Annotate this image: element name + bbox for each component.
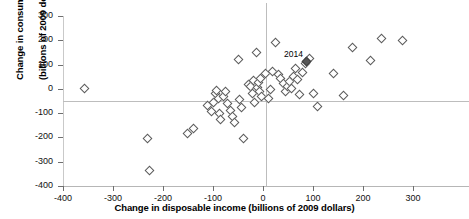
x-tick-label: -300 <box>91 193 135 203</box>
annotation-2014-label: 2014 <box>284 49 303 59</box>
x-axis-title: Change in disposable income (billions of… <box>0 202 469 213</box>
data-point <box>233 55 243 65</box>
data-point <box>328 69 338 79</box>
scatter-chart-figure: Change in consumption (billions of 2009 … <box>0 0 469 219</box>
y-tick-label: -100 <box>15 107 53 117</box>
y-tick-mark <box>58 89 63 90</box>
y-tick-label: 200 <box>15 34 53 44</box>
y-tick-mark <box>58 137 63 138</box>
y-tick-label: -300 <box>15 156 53 166</box>
y-tick-mark <box>58 65 63 66</box>
x-tick-mark <box>213 186 214 191</box>
x-tick-label: -100 <box>191 193 235 203</box>
data-point <box>308 88 318 98</box>
x-tick-label: 200 <box>341 193 385 203</box>
data-point <box>249 97 259 107</box>
x-tick-label: -400 <box>41 193 85 203</box>
x-tick-label: 0 <box>241 193 285 203</box>
plot-area: -400-300-200-1000100200300 -400-300-200-… <box>63 16 413 186</box>
y-tick-mark <box>58 113 63 114</box>
y-tick-mark <box>58 186 63 187</box>
data-point <box>238 134 248 144</box>
x-tick-mark <box>313 186 314 191</box>
y-tick-mark <box>58 40 63 41</box>
x-axis-line <box>63 186 469 187</box>
data-point <box>270 38 280 48</box>
x-tick-mark <box>363 186 364 191</box>
x-tick-mark <box>163 186 164 191</box>
data-point <box>312 101 322 111</box>
y-tick-label: 300 <box>15 10 53 20</box>
y-tick-label: -400 <box>15 180 53 190</box>
y-tick-mark <box>58 16 63 17</box>
data-point <box>294 89 304 99</box>
x-tick-mark <box>113 186 114 191</box>
x-tick-label: 300 <box>391 193 435 203</box>
data-point <box>251 48 261 58</box>
data-point <box>144 166 154 176</box>
y-tick-label: 0 <box>15 83 53 93</box>
x-tick-mark <box>63 186 64 191</box>
x-tick-mark <box>413 186 414 191</box>
x-tick-label: -200 <box>141 193 185 203</box>
data-point <box>347 43 357 53</box>
y-tick-label: -200 <box>15 131 53 141</box>
x-tick-mark <box>263 186 264 191</box>
data-point <box>376 33 386 43</box>
data-point <box>142 134 152 144</box>
data-point <box>338 91 348 101</box>
data-point <box>365 55 375 65</box>
y-tick-mark <box>58 162 63 163</box>
x-tick-label: 100 <box>291 193 335 203</box>
y-tick-label: 100 <box>15 59 53 69</box>
data-point <box>236 102 246 112</box>
data-point <box>80 84 90 94</box>
data-point <box>397 35 407 45</box>
